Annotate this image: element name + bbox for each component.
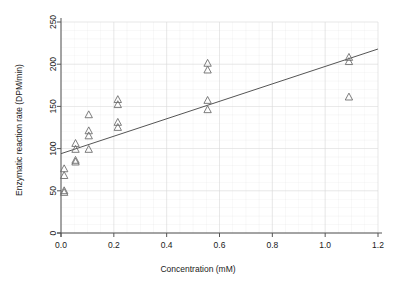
y-axis-title: Enzymatic reaction rate (DPM/min): [14, 64, 24, 196]
y-tick-label: 250: [48, 15, 58, 29]
x-axis-title: Concentration (mM): [160, 264, 235, 274]
y-tick-label: 50: [48, 186, 58, 196]
x-tick-label: 0.6: [214, 240, 226, 250]
x-tick-label: 0.0: [55, 240, 67, 250]
x-tick-label: 1.0: [319, 240, 331, 250]
x-tick-label: 0.4: [161, 240, 173, 250]
y-tick-label: 0: [48, 230, 58, 235]
y-tick-label: 200: [48, 57, 58, 71]
x-tick-label: 0.8: [266, 240, 278, 250]
y-tick-label: 150: [48, 99, 58, 113]
plot-canvas: 0.00.20.40.60.81.01.2 050100150200250 Co…: [0, 0, 396, 297]
y-tick-label: 100: [48, 141, 58, 155]
x-tick-label: 0.2: [108, 240, 120, 250]
figure-caption: [0, 287, 396, 297]
scatter-plot-figure: 0.00.20.40.60.81.01.2 050100150200250 Co…: [0, 0, 396, 297]
x-tick-label: 1.2: [372, 240, 384, 250]
